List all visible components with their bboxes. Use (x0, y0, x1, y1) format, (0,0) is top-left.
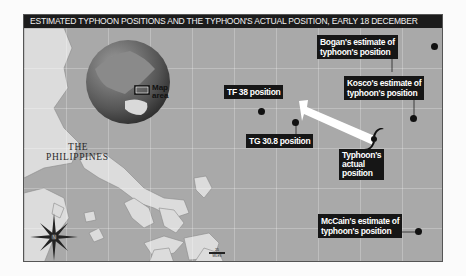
map-area: Map area THE PHILIPPINES TF 38 position (24, 28, 442, 262)
kosco-label-line2: typhoon's position (347, 88, 421, 98)
mccain-label-line1: McCain's estimate of (321, 216, 399, 226)
svg-text:N: N (52, 235, 55, 240)
figure-title: ESTIMATED TYPHOON POSITIONS AND THE TYPH… (24, 15, 442, 28)
kosco-label-line1: Kosco's estimate of (347, 78, 421, 88)
tf38-label: TF 38 position (224, 85, 283, 99)
mccain-label-line2: typhoon's position (321, 226, 399, 236)
kosco-label: Kosco's estimate of typhoon's position (344, 76, 424, 100)
map-figure: ESTIMATED TYPHOON POSITIONS AND THE TYPH… (23, 14, 443, 262)
tg308-position-dot (292, 119, 299, 126)
bogan-estimate-dot (431, 43, 438, 50)
compass-rose-icon: N (29, 212, 79, 262)
tg308-label: TG 30.8 position (246, 134, 313, 148)
actual-label-line3: position (342, 169, 381, 178)
mccain-estimate-dot (415, 228, 422, 235)
bogan-label: Bogan's estimate of typhoon's position (317, 35, 398, 59)
mccain-label: McCain's estimate of typhoon's position (318, 214, 402, 238)
scale-bar: 25 MILES (209, 248, 225, 258)
kosco-estimate-dot (410, 115, 417, 122)
actual-position-label: Typhoon's actual position (339, 149, 384, 180)
bogan-label-line2: typhoon's position (320, 47, 395, 57)
bogan-label-line1: Bogan's estimate of (320, 37, 395, 47)
scale-unit: MILES (209, 254, 225, 258)
tf38-position-dot (258, 108, 265, 115)
